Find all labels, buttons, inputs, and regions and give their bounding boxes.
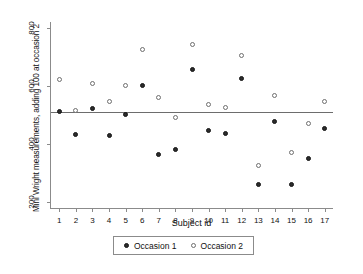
filled-circle-icon <box>124 243 129 248</box>
data-point <box>140 83 145 88</box>
x-tick-mark <box>109 208 110 212</box>
x-tick-mark <box>92 208 93 212</box>
data-point <box>289 182 294 187</box>
data-point <box>90 81 95 86</box>
legend-item-occasion-1: Occasion 1 <box>124 241 177 251</box>
chart-legend: Occasion 1 Occasion 2 <box>113 236 254 255</box>
plot-area: 200400600800 1234567891011121314151617 <box>50 22 333 209</box>
x-tick-mark <box>308 208 309 212</box>
x-tick-mark <box>209 208 210 212</box>
x-tick-mark <box>142 208 143 212</box>
reference-line <box>51 112 333 113</box>
data-point <box>173 147 178 152</box>
data-point <box>322 99 327 104</box>
scatter-plot-figure: Mini Wright measurements, adding 100 at … <box>0 0 363 274</box>
x-tick-mark <box>325 208 326 212</box>
y-tick-mark <box>47 86 51 87</box>
data-point <box>173 115 178 120</box>
data-point <box>57 77 62 82</box>
data-point <box>223 105 228 110</box>
data-point <box>140 47 145 52</box>
legend-item-occasion-2: Occasion 2 <box>191 241 244 251</box>
x-tick-mark <box>225 208 226 212</box>
data-point <box>107 133 112 138</box>
x-tick-mark <box>76 208 77 212</box>
data-point <box>190 42 195 47</box>
data-point <box>223 131 228 136</box>
data-point <box>272 119 277 124</box>
y-tick-mark <box>47 28 51 29</box>
y-tick-mark <box>47 144 51 145</box>
x-tick-mark <box>275 208 276 212</box>
x-tick-mark <box>59 208 60 212</box>
data-point <box>90 106 95 111</box>
data-point <box>256 163 261 168</box>
x-tick-mark <box>159 208 160 212</box>
data-point <box>190 67 195 72</box>
y-tick-label: 200 <box>26 191 38 213</box>
legend-label-occasion-2: Occasion 2 <box>201 241 244 251</box>
data-point <box>289 150 294 155</box>
data-point <box>57 109 62 114</box>
data-point <box>107 99 112 104</box>
data-point <box>156 152 161 157</box>
data-point <box>206 102 211 107</box>
data-point <box>156 95 161 100</box>
data-point <box>239 53 244 58</box>
data-point <box>239 76 244 81</box>
data-point <box>73 132 78 137</box>
data-point <box>206 128 211 133</box>
data-point <box>256 182 261 187</box>
x-tick-mark <box>242 208 243 212</box>
data-point <box>123 83 128 88</box>
data-point <box>272 93 277 98</box>
x-axis-label: Subject id <box>50 218 333 228</box>
open-circle-icon <box>191 243 196 248</box>
data-point <box>123 112 128 117</box>
data-point <box>322 126 327 131</box>
y-tick-label: 400 <box>26 133 38 155</box>
x-tick-mark <box>192 208 193 212</box>
x-tick-mark <box>175 208 176 212</box>
y-tick-mark <box>47 202 51 203</box>
legend-label-occasion-1: Occasion 1 <box>134 241 177 251</box>
x-tick-mark <box>292 208 293 212</box>
x-tick-mark <box>258 208 259 212</box>
y-tick-label: 800 <box>26 17 38 39</box>
data-point <box>306 156 311 161</box>
x-tick-mark <box>126 208 127 212</box>
y-tick-label: 600 <box>26 75 38 97</box>
data-point <box>306 121 311 126</box>
